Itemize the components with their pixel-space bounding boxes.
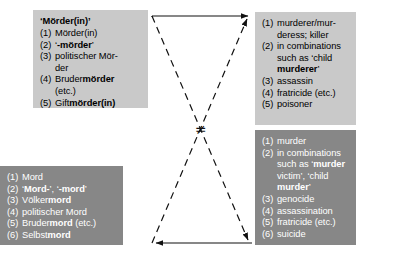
list-item-continuation: murderer’	[277, 64, 349, 76]
list-german-mord: (1)Mord(2)‘Mord-’, ‘-mord’(3)Völkermord(…	[7, 172, 116, 242]
list-item-text: genocide	[277, 194, 349, 206]
list-item-text: Brudermörder	[55, 74, 141, 86]
list-item-text: Mörder(in)	[55, 28, 141, 40]
box-english-murderer: (1)murderer/mur-deress; killer(2)in comb…	[255, 12, 356, 125]
list-item: (1)Mord	[7, 172, 116, 184]
list-item-text: assassination	[277, 206, 349, 218]
list-english-mord: (1)murder(2)in combinationssuch as ‘murd…	[262, 136, 349, 240]
list-item-number: (2)	[262, 41, 276, 53]
list-item-number: (5)	[262, 217, 276, 229]
list-item-number: (4)	[262, 88, 276, 100]
box-header-german-murderer: ‘Mörder(in)’	[40, 16, 141, 28]
list-item: (3)assassin	[262, 76, 349, 88]
list-item-number: (5)	[40, 98, 54, 110]
list-item: (1)murder	[262, 136, 349, 148]
list-item: (1)murderer/mur-deress; killer	[262, 18, 349, 41]
list-item-text: Mord	[22, 172, 116, 184]
list-item-number: (1)	[262, 136, 276, 148]
list-item-number: (3)	[40, 51, 54, 63]
list-item: (5)poisoner	[262, 99, 349, 111]
list-item-text: ‘-mörder’	[55, 40, 141, 52]
list-item-number: (3)	[262, 76, 276, 88]
list-item: (6)suicide	[262, 229, 349, 241]
list-item-continuation: such as ‘child	[277, 53, 349, 65]
list-item: (4)Brudermörder(etc.)	[40, 74, 141, 97]
list-item-text: murder	[277, 136, 349, 148]
list-item-continuation: victim’, ‘child	[277, 171, 349, 183]
list-item: (3)politischer Mör-der	[40, 51, 141, 74]
list-item-text: assassin	[277, 76, 349, 88]
list-item-number: (3)	[7, 195, 21, 207]
list-item-text: ‘Mord-’, ‘-mord’	[22, 184, 116, 196]
box-german-murderer: ‘Mörder(in)’ (1)Mörder(in)(2)‘-mörder’(3…	[33, 10, 148, 108]
list-item: (3)genocide	[262, 194, 349, 206]
list-item: (5)fratricide (etc.)	[262, 217, 349, 229]
list-item-continuation: such as ‘murder	[277, 159, 349, 171]
list-item: (4)fratricide (etc.)	[262, 88, 349, 100]
list-item-text: in combinations	[277, 148, 349, 160]
list-item: (4)politischer Mord	[7, 207, 116, 219]
list-item-text: Brudermord (etc.)	[22, 218, 116, 230]
list-item-number: (2)	[262, 148, 276, 160]
not-equal-symbol: ≠	[195, 122, 207, 136]
box-english-mord: (1)murder(2)in combinationssuch as ‘murd…	[255, 130, 356, 245]
list-item: (3)Völkermord	[7, 195, 116, 207]
list-item-continuation: (etc.)	[55, 86, 141, 98]
diagram-canvas: ≠ ‘Mörder(in)’ (1)Mörder(in)(2)‘-mörder’…	[0, 0, 402, 268]
list-item: (2)in combinationssuch as ‘murdervictim’…	[262, 148, 349, 194]
list-item: (5)Brudermord (etc.)	[7, 218, 116, 230]
list-english-murderer: (1)murderer/mur-deress; killer(2)in comb…	[262, 18, 349, 111]
list-item-number: (4)	[262, 206, 276, 218]
list-item-number: (3)	[262, 194, 276, 206]
list-item-number: (5)	[7, 218, 21, 230]
list-item-text: Giftmörder(in)	[55, 98, 141, 110]
list-item-text: suicide	[277, 229, 349, 241]
box-german-mord: (1)Mord(2)‘Mord-’, ‘-mord’(3)Völkermord(…	[0, 166, 123, 245]
list-item: (6)Selbstmord	[7, 230, 116, 242]
list-item: (2)‘-mörder’	[40, 40, 141, 52]
list-item-text: politischer Mör-	[55, 51, 141, 63]
list-item: (4)assassination	[262, 206, 349, 218]
list-item-text: Völkermord	[22, 195, 116, 207]
list-item-text: fratricide (etc.)	[277, 88, 349, 100]
list-item-number: (1)	[7, 172, 21, 184]
list-item-number: (4)	[7, 207, 21, 219]
list-item: (1)Mörder(in)	[40, 28, 141, 40]
list-item-number: (5)	[262, 99, 276, 111]
list-item-number: (4)	[40, 74, 54, 86]
list-item-text: politischer Mord	[22, 207, 116, 219]
list-item-text: murderer/mur-	[277, 18, 349, 30]
list-item-number: (6)	[7, 230, 21, 242]
list-item-number: (2)	[7, 184, 21, 196]
list-item-number: (2)	[40, 40, 54, 52]
list-item-number: (6)	[262, 229, 276, 241]
list-item-number: (1)	[40, 28, 54, 40]
list-item-text: in combinations	[277, 41, 349, 53]
list-german-murderer: (1)Mörder(in)(2)‘-mörder’(3)politischer …	[40, 28, 141, 109]
list-item-text: Selbstmord	[22, 230, 116, 242]
list-item: (2)‘Mord-’, ‘-mord’	[7, 184, 116, 196]
list-item-number: (1)	[262, 18, 276, 30]
list-item: (2)in combinationssuch as ‘childmurderer…	[262, 41, 349, 76]
list-item-continuation: deress; killer	[277, 30, 349, 42]
list-item-continuation: murder’	[277, 182, 349, 194]
list-item-text: poisoner	[277, 99, 349, 111]
list-item-continuation: der	[55, 63, 141, 75]
list-item: (5)Giftmörder(in)	[40, 98, 141, 110]
list-item-text: fratricide (etc.)	[277, 217, 349, 229]
